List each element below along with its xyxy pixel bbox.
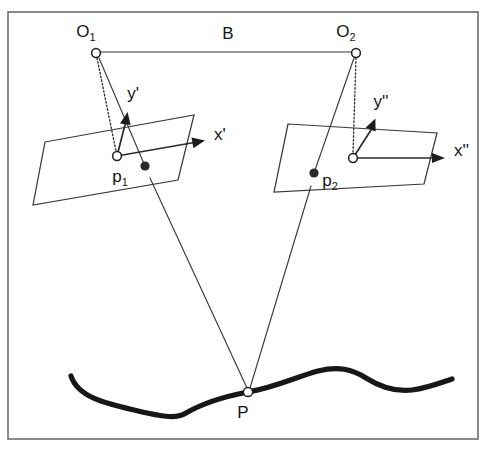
label-axis-y-left: y' [127,84,139,103]
figure-border [8,12,478,439]
camera-center-o1 [92,49,101,58]
principal-point-right [349,154,358,163]
image-point-p1-dot [140,161,149,170]
label-axis-y-right: y'' [374,92,389,111]
camera-center-o2 [352,49,361,58]
label-baseline-b: B [222,24,233,43]
scene-point-p [243,387,252,396]
diagram-canvas: O1 O2 B y' x' y'' x'' p1 p2 P [0,0,488,451]
image-point-p2-dot [309,168,318,177]
label-axis-x-left: x' [214,125,226,144]
principal-point-left [113,152,122,161]
stereo-geometry-figure: O1 O2 B y' x' y'' x'' p1 p2 P [0,0,488,451]
label-axis-x-right: x'' [454,141,469,160]
label-scene-point-p: P [237,403,248,422]
